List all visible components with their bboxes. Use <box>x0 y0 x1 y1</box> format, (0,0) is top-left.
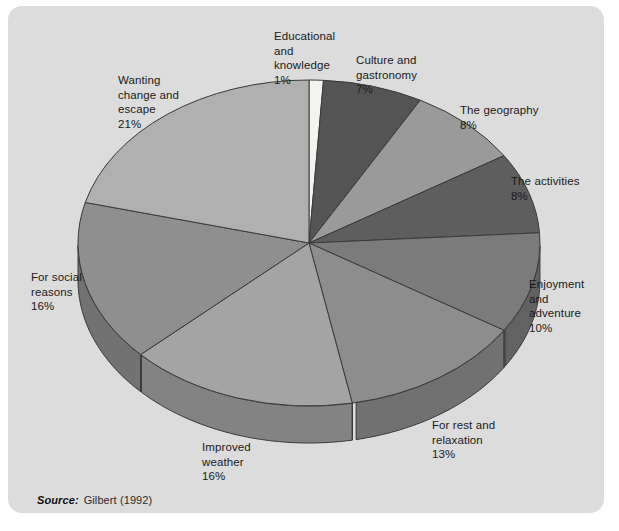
slice-label-the-geography: The geography 8% <box>460 103 570 132</box>
slice-label-for-social-reasons: For social reasons 16% <box>31 270 123 314</box>
figure-panel: Educational and knowledge 1% Culture and… <box>8 6 604 513</box>
source-line: Source:Gilbert (1992) <box>37 494 152 506</box>
slice-label-for-rest-and-relaxation: For rest and relaxation 13% <box>432 418 532 462</box>
source-value: Gilbert (1992) <box>84 494 153 506</box>
slice-label-improved-weather: Improved weather 16% <box>202 440 296 484</box>
slice-label-enjoyment-and-adventure: Enjoyment and adventure 10% <box>529 277 604 335</box>
source-label: Source: <box>37 494 79 506</box>
slice-label-educational-and-knowledge: Educational and knowledge 1% <box>274 29 362 87</box>
slice-label-the-activities: The activities 8% <box>511 174 604 203</box>
slice-label-culture-and-gastronomy: Culture and gastronomy 7% <box>356 53 448 97</box>
slice-label-wanting-change-and-escape: Wanting change and escape 21% <box>118 73 218 131</box>
